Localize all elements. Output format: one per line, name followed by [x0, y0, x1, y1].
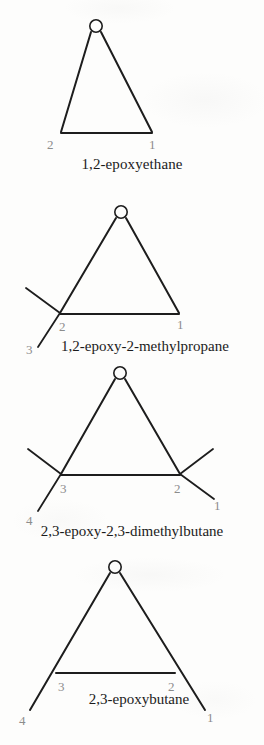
locant-label-2: 2	[59, 319, 66, 334]
locant-label-2: 2	[47, 137, 54, 152]
structure-epoxyethane: 2 1 1,2-epoxyethane	[0, 0, 264, 185]
skeletal-diagram-epoxy-dimethylbutane: 3 2 1 4	[0, 363, 264, 528]
caption-epoxy-dimethylbutane: 2,3-epoxy-2,3-dimethylbutane	[0, 523, 264, 540]
bond-o-to-c3-and-methyl	[30, 573, 110, 710]
oxygen-atom-circle	[90, 20, 102, 32]
bond-methyl-upper	[26, 288, 60, 313]
bond-methyl-left-upper	[28, 449, 61, 474]
bond-o-to-c2-and-methyl	[120, 573, 205, 710]
structure-epoxy-dimethylbutane: 3 2 1 4 2,3-epoxy-2,3-dimethylbutane	[0, 363, 264, 548]
bond-o-to-c1	[101, 32, 152, 132]
oxygen-atom-circle	[109, 561, 121, 573]
locant-label-1: 1	[214, 498, 221, 513]
locant-label-1: 1	[177, 317, 184, 332]
bond-o-to-c2	[61, 32, 91, 132]
skeletal-diagram-epoxy-2-methylpropane: 2 1 3	[0, 195, 264, 355]
bond-methyl-right-upper	[180, 449, 213, 474]
locant-label-1: 1	[207, 710, 214, 725]
locant-label-1: 1	[149, 137, 156, 152]
bond-methyl-right-lower	[180, 474, 214, 499]
oxygen-atom-circle	[114, 367, 126, 379]
bond-o-to-c3	[61, 379, 115, 474]
oxygen-atom-circle	[115, 206, 127, 218]
bond-o-to-c1	[126, 218, 179, 313]
structure-epoxy-2-methylpropane: 2 1 3 1,2-epoxy-2-methylpropane	[0, 195, 264, 360]
scanned-page: 2 1 1,2-epoxyethane 2 1 3 1,2-epoxy-2-me…	[0, 0, 264, 745]
caption-epoxy-2-methylpropane: 1,2-epoxy-2-methylpropane	[0, 338, 264, 355]
locant-label-4: 4	[19, 713, 26, 727]
structure-epoxybutane: 3 2 4 1 2,3-epoxybutane	[0, 552, 264, 745]
bond-methyl-left-lower	[38, 474, 61, 511]
caption-epoxybutane: 2,3-epoxybutane	[0, 691, 264, 708]
locant-label-3: 3	[60, 481, 67, 496]
caption-epoxyethane: 1,2-epoxyethane	[0, 156, 264, 173]
locant-label-2: 2	[174, 481, 181, 496]
skeletal-diagram-epoxyethane: 2 1	[0, 0, 264, 155]
bond-o-to-c2	[125, 379, 180, 474]
bond-o-to-c2	[60, 218, 116, 313]
